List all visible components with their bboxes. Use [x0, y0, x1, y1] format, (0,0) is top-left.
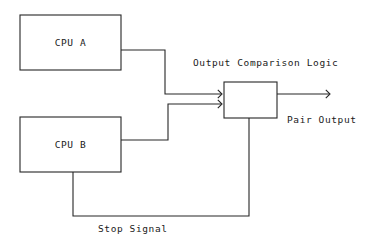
block-diagram-canvas: CPU A CPU B Output Comparison Logic Pair… [0, 0, 375, 244]
caption-pair-output: Pair Output [287, 114, 357, 125]
block-label-cpu-a: CPU A [55, 37, 87, 48]
block-comparison-logic [224, 82, 277, 118]
wire-cpu-b-to-comparator [121, 104, 221, 140]
diagram-root: CPU A CPU B Output Comparison Logic Pair… [0, 0, 375, 244]
block-label-cpu-b: CPU B [55, 139, 87, 150]
caption-stop-signal: Stop Signal [98, 223, 168, 234]
caption-output-comparison-logic: Output Comparison Logic [193, 57, 338, 68]
